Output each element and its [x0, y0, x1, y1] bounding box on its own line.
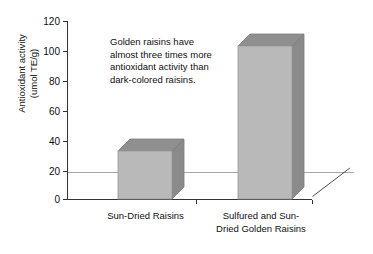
bar-3d-shape: [118, 139, 184, 201]
y-tick-label: 120: [26, 17, 60, 27]
bar-sulfured-golden-raisins: [238, 34, 292, 199]
annotation-line-2: almost three times more: [110, 49, 250, 62]
floor-depth-line: [312, 168, 354, 200]
x-category-label-0: Sun-Dried Raisins: [88, 210, 203, 223]
chart-annotation: Golden raisins have almost three times m…: [110, 36, 250, 86]
y-axis-tick-labels: 120 100 80 60 40 20 0: [24, 0, 60, 254]
x-category-label-1-line2: Dried Golden Raisins: [200, 223, 322, 236]
x-tick-mark: [312, 200, 313, 204]
x-category-label-1-line1: Sulfured and Sun-: [200, 210, 322, 223]
y-tick-label: 60: [26, 107, 60, 117]
chart-container: Antioxidant activity (umol TE/g) 120 100…: [0, 0, 373, 254]
x-category-label-0-line1: Sun-Dried Raisins: [88, 210, 203, 223]
x-category-label-1: Sulfured and Sun- Dried Golden Raisins: [200, 210, 322, 235]
annotation-line-1: Golden raisins have: [110, 36, 250, 49]
annotation-line-3: antioxidant activity than: [110, 61, 250, 74]
x-tick-mark: [196, 200, 197, 204]
y-tick-label: 20: [26, 167, 60, 177]
bar-sun-dried-raisins: [118, 139, 172, 199]
y-tick-label: 40: [26, 137, 60, 147]
y-tick-label: 80: [26, 77, 60, 87]
y-axis-line: [67, 21, 68, 200]
y-tick-label: 0: [26, 195, 60, 205]
annotation-line-4: dark-colored raisins.: [110, 74, 250, 87]
bar-3d-shape: [238, 34, 304, 201]
y-tick-label: 100: [26, 47, 60, 57]
